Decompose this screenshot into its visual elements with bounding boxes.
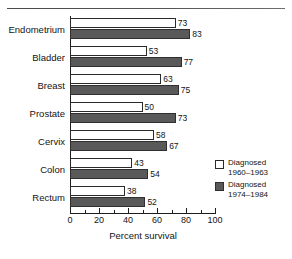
category-label: Colon	[40, 165, 65, 175]
plot-area: Endometrium7383Bladder5377Breast6375Pros…	[70, 16, 215, 212]
bar-group: Bladder5377	[70, 44, 215, 72]
horizontal-bar-chart: Endometrium7383Bladder5377Breast6375Pros…	[0, 0, 292, 259]
bar-1: 54	[70, 169, 148, 179]
x-axis-title: Percent survival	[70, 231, 216, 241]
category-label: Breast	[38, 81, 65, 91]
bar-0: 38	[70, 186, 125, 196]
x-tick-major	[99, 208, 100, 213]
bar-value-label: 75	[181, 86, 190, 95]
x-tick-label: 0	[67, 216, 72, 225]
chart-legend: Diagnosed 1960–1963 Diagnosed 1974–1984	[215, 158, 291, 202]
x-tick-label: 80	[181, 216, 191, 225]
x-tick-minor	[201, 210, 202, 213]
bar-value-label: 67	[169, 142, 178, 151]
bar-0: 53	[70, 46, 147, 56]
bar-value-label: 43	[134, 159, 143, 168]
category-label: Bladder	[32, 53, 65, 63]
bar-group: Endometrium7383	[70, 16, 215, 44]
bar-group: Breast6375	[70, 72, 215, 100]
x-tick-label: 60	[152, 216, 162, 225]
bar-value-label: 63	[163, 75, 172, 84]
bar-0: 43	[70, 158, 132, 168]
x-axis-line	[70, 213, 216, 214]
bar-value-label: 58	[156, 131, 165, 140]
bar-0: 58	[70, 130, 154, 140]
x-tick-major	[157, 208, 158, 213]
legend-label-series-1-line2: 1974–1984	[228, 190, 268, 199]
x-axis-tick-labels: 020406080100	[70, 216, 216, 228]
category-label: Cervix	[38, 137, 65, 147]
bar-1: 73	[70, 113, 176, 123]
bar-0: 73	[70, 18, 176, 28]
x-axis-ticks	[70, 208, 216, 213]
x-tick-minor	[172, 210, 173, 213]
x-tick-label: 100	[207, 216, 222, 225]
category-label: Rectum	[32, 193, 65, 203]
bar-value-label: 53	[149, 47, 158, 56]
bar-value-label: 83	[192, 30, 201, 39]
x-tick-minor	[114, 210, 115, 213]
bar-value-label: 50	[145, 103, 154, 112]
bar-value-label: 73	[178, 114, 187, 123]
legend-label-series-1-line1: Diagnosed	[228, 180, 266, 189]
x-tick-major	[186, 208, 187, 213]
legend-item-series-0: Diagnosed 1960–1963	[215, 158, 291, 177]
bar-0: 63	[70, 74, 161, 84]
x-tick-major	[70, 208, 71, 213]
bar-value-label: 77	[184, 58, 193, 67]
bar-1: 67	[70, 141, 167, 151]
bar-1: 52	[70, 197, 145, 207]
x-tick-minor	[143, 210, 144, 213]
x-tick-label: 20	[94, 216, 104, 225]
legend-swatch-icon-series-0	[215, 160, 224, 169]
bar-group: Colon4354	[70, 156, 215, 184]
category-label: Endometrium	[9, 25, 66, 35]
legend-label-series-0: Diagnosed 1960–1963	[228, 158, 268, 177]
bar-1: 83	[70, 29, 190, 39]
bar-1: 77	[70, 57, 182, 67]
category-label: Prostate	[30, 109, 65, 119]
bar-value-label: 73	[178, 19, 187, 28]
bar-value-label: 38	[127, 187, 136, 196]
legend-label-series-1: Diagnosed 1974–1984	[228, 180, 268, 199]
x-tick-label: 40	[123, 216, 133, 225]
x-tick-minor	[85, 210, 86, 213]
bar-group: Cervix5867	[70, 128, 215, 156]
bar-1: 75	[70, 85, 179, 95]
x-tick-major	[128, 208, 129, 213]
legend-item-series-1: Diagnosed 1974–1984	[215, 180, 291, 199]
bar-value-label: 54	[150, 170, 159, 179]
bar-0: 50	[70, 102, 143, 112]
bar-value-label: 52	[147, 198, 156, 207]
legend-label-series-0-line1: Diagnosed	[228, 158, 266, 167]
legend-swatch-icon-series-1	[215, 182, 224, 191]
legend-label-series-0-line2: 1960–1963	[228, 168, 268, 177]
x-tick-major	[215, 208, 216, 213]
bar-group: Prostate5073	[70, 100, 215, 128]
